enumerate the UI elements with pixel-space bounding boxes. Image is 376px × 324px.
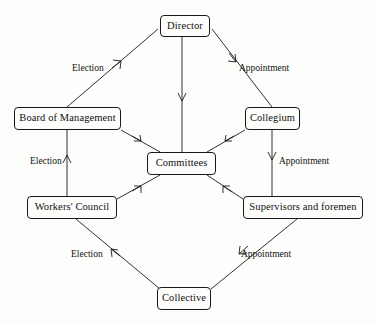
node-collegium-label: Collegium: [250, 113, 295, 124]
node-collegium[interactable]: Collegium: [245, 107, 300, 130]
edge-label-appointment-top-right: Appointment: [239, 64, 289, 74]
edge-label-election-top-left: Election: [72, 64, 104, 74]
edge-label-election-middle-left: Election: [30, 157, 62, 167]
node-director-label: Director: [167, 21, 203, 32]
edge-label-appointment-middle-right: Appointment: [279, 157, 329, 167]
node-collective-label: Collective: [162, 293, 206, 304]
node-committees[interactable]: Committees: [147, 152, 216, 175]
node-board-of-management[interactable]: Board of Management: [14, 107, 121, 130]
organisation-diagram: Director Board of Management Collegium C…: [0, 0, 376, 324]
arrowhead-collective-to-workers: [111, 249, 120, 257]
node-workers-council-label: Workers' Council: [35, 202, 110, 213]
node-supervisors-and-foremen-label: Supervisors and foremen: [249, 202, 356, 213]
arrowhead-collegium-to-committees: [225, 135, 234, 141]
node-supervisors-and-foremen[interactable]: Supervisors and foremen: [243, 196, 363, 219]
edge-label-election-bottom-left: Election: [71, 250, 103, 260]
node-board-of-management-label: Board of Management: [19, 113, 115, 124]
edge-label-appointment-bottom-right: Appointment: [241, 250, 291, 260]
node-workers-council[interactable]: Workers' Council: [27, 196, 117, 219]
arrowhead-supervisors-to-committees: [223, 186, 232, 193]
node-director[interactable]: Director: [160, 15, 210, 37]
arrowhead-board-to-committees: [132, 135, 141, 141]
node-committees-label: Committees: [156, 158, 208, 169]
node-collective[interactable]: Collective: [157, 287, 211, 310]
